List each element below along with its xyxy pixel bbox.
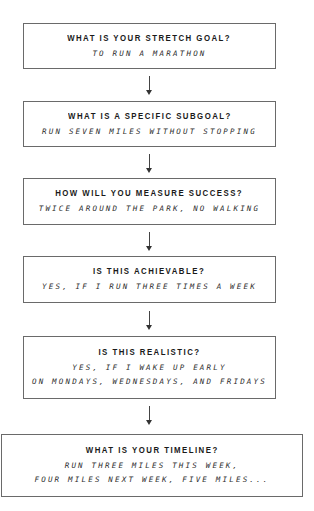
answer-line: YES, IF I RUN THREE TIMES A WEEK bbox=[42, 280, 257, 294]
step-box-measure-success: HOW WILL YOU MEASURE SUCCESS? TWICE AROU… bbox=[23, 178, 276, 225]
step-question: HOW WILL YOU MEASURE SUCCESS? bbox=[56, 187, 244, 199]
answer-line: TWICE AROUND THE PARK, NO WALKING bbox=[39, 202, 261, 216]
down-arrow-icon bbox=[146, 311, 153, 331]
down-arrow-icon bbox=[146, 76, 153, 96]
step-box-timeline: WHAT IS YOUR TIMELINE? RUN THREE MILES T… bbox=[1, 434, 303, 497]
step-answer: TO RUN A MARATHON bbox=[92, 47, 206, 61]
step-question: IS THIS REALISTIC? bbox=[98, 346, 200, 358]
step-answer: TWICE AROUND THE PARK, NO WALKING bbox=[39, 202, 261, 216]
step-answer: RUN THREE MILES THIS WEEK, FOUR MILES NE… bbox=[34, 459, 269, 487]
step-question: WHAT IS YOUR TIMELINE? bbox=[86, 444, 219, 456]
step-answer: RUN SEVEN MILES WITHOUT STOPPING bbox=[42, 125, 257, 139]
answer-line: ON MONDAYS, WEDNESDAYS, AND FRIDAYS bbox=[32, 375, 267, 389]
step-box-stretch-goal: WHAT IS YOUR STRETCH GOAL? TO RUN A MARA… bbox=[23, 23, 276, 69]
step-answer: YES, IF I RUN THREE TIMES A WEEK bbox=[42, 280, 257, 294]
step-question: WHAT IS YOUR STRETCH GOAL? bbox=[68, 32, 232, 44]
step-box-specific-subgoal: WHAT IS A SPECIFIC SUBGOAL? RUN SEVEN MI… bbox=[23, 101, 276, 147]
answer-line: TO RUN A MARATHON bbox=[92, 47, 206, 61]
down-arrow-icon bbox=[146, 406, 153, 426]
step-box-realistic: IS THIS REALISTIC? YES, IF I WAKE UP EAR… bbox=[23, 336, 276, 399]
answer-line: RUN THREE MILES THIS WEEK, bbox=[34, 459, 269, 473]
answer-line: FOUR MILES NEXT WEEK, FIVE MILES... bbox=[34, 473, 269, 487]
step-question: IS THIS ACHIEVABLE? bbox=[93, 265, 205, 277]
answer-line: YES, IF I WAKE UP EARLY bbox=[32, 361, 267, 375]
down-arrow-icon bbox=[146, 232, 153, 252]
step-question: WHAT IS A SPECIFIC SUBGOAL? bbox=[68, 110, 232, 122]
down-arrow-icon bbox=[146, 154, 153, 174]
answer-line: RUN SEVEN MILES WITHOUT STOPPING bbox=[42, 125, 257, 139]
step-box-achievable: IS THIS ACHIEVABLE? YES, IF I RUN THREE … bbox=[23, 256, 276, 303]
step-answer: YES, IF I WAKE UP EARLY ON MONDAYS, WEDN… bbox=[32, 361, 267, 389]
